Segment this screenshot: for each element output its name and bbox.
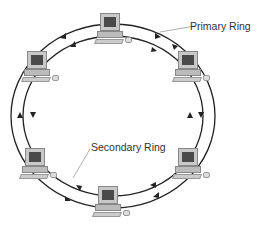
ring-diagram — [0, 0, 263, 230]
secondary-ring-leader — [73, 149, 90, 178]
computer-top — [95, 13, 127, 47]
computer-top-left — [22, 51, 54, 85]
computer-bottom-left — [20, 148, 52, 182]
computer-bottom-right — [173, 148, 205, 182]
secondary-ring-label: Secondary Ring — [91, 141, 166, 153]
primary-ring-label: Primary Ring — [190, 20, 251, 32]
computer-top-right — [173, 51, 205, 85]
computer-bottom — [93, 186, 125, 220]
